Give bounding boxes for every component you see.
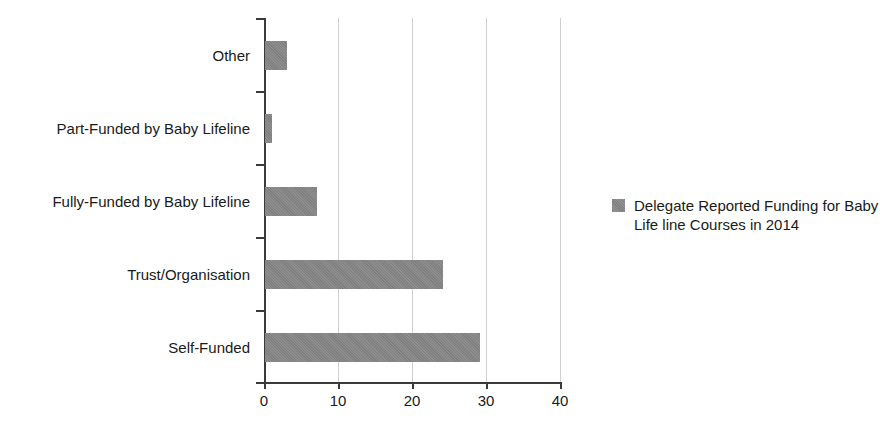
bar-part-funded-by-baby-lifeline: [265, 114, 272, 143]
category-label-fully-funded-by-baby-lifeline: Fully-Funded by Baby Lifeline: [52, 193, 250, 210]
category-label-other: Other: [212, 47, 250, 64]
y-tick-1: [256, 91, 264, 93]
category-label-self-funded: Self-Funded: [168, 339, 250, 356]
x-axis-tick-label-20: 20: [392, 392, 432, 410]
bar-fully-funded-by-baby-lifeline: [265, 187, 317, 216]
category-label-trust-organisation: Trust/Organisation: [127, 266, 250, 283]
y-tick-2: [256, 164, 264, 166]
legend-label: Delegate Reported Funding for Baby Life …: [634, 196, 884, 234]
y-tick-5: [256, 382, 264, 384]
bar-trust-organisation: [265, 260, 443, 289]
chart-legend: Delegate Reported Funding for Baby Life …: [612, 196, 884, 234]
gridline-20: [412, 18, 413, 382]
x-tick-0: [264, 382, 266, 389]
x-tick-20: [412, 382, 414, 389]
y-tick-0: [256, 18, 264, 20]
bar-self-funded: [265, 333, 480, 362]
x-axis-tick-label-30: 30: [466, 392, 506, 410]
gridline-40: [560, 18, 561, 382]
x-tick-30: [486, 382, 488, 389]
x-tick-10: [338, 382, 340, 389]
legend-swatch-icon: [612, 199, 625, 212]
bar-other: [265, 41, 287, 70]
gridline-30: [486, 18, 487, 382]
y-tick-3: [256, 237, 264, 239]
x-axis-tick-label-10: 10: [318, 392, 358, 410]
category-axis-labels: Other Part-Funded by Baby Lifeline Fully…: [0, 0, 250, 439]
gridline-10: [338, 18, 339, 382]
x-axis-tick-label-0: 0: [244, 392, 284, 410]
category-label-part-funded-by-baby-lifeline: Part-Funded by Baby Lifeline: [57, 120, 250, 137]
x-axis-tick-label-40: 40: [540, 392, 580, 410]
x-tick-40: [560, 382, 562, 389]
bar-chart: Other Part-Funded by Baby Lifeline Fully…: [0, 0, 896, 439]
y-tick-4: [256, 310, 264, 312]
